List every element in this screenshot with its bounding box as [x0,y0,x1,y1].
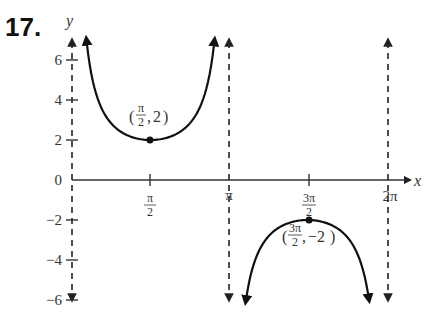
csc-graph: x y 6 4 2 0 −2 −4 −6 π 2 π 3π 2 [0,0,429,318]
x-tick-pi-over-2-num: π [147,191,153,205]
x-axis: x [72,172,421,189]
svg-text:(: ( [129,108,134,126]
x-tick-pi: π [225,187,233,203]
svg-text:−2: −2 [308,228,325,245]
y-tick-neg4: −4 [46,252,62,268]
y-tick-labels: 6 4 2 0 −2 −4 −6 [46,52,62,308]
svg-text:π: π [138,101,144,115]
svg-text:3π: 3π [289,221,301,235]
y-axis: y [64,12,74,298]
label-min: ( π 2 , 2 ) [129,101,168,129]
svg-text:,: , [302,228,306,245]
y-tick-neg2: −2 [46,212,62,228]
y-tick-neg6: −6 [46,292,62,308]
svg-text:2: 2 [138,115,144,129]
label-max: ( 3π 2 , −2 ) [282,221,335,249]
point-min [147,137,154,144]
y-tick-6: 6 [55,52,63,68]
svg-text:,: , [147,108,151,125]
y-tick-2: 2 [55,132,63,148]
x-axis-label: x [413,172,421,189]
x-tick-3pi-over-2-num: 3π [303,191,315,205]
x-tick-2pi: 2π [382,188,398,204]
svg-text:): ) [163,108,168,126]
curve-branch-1 [86,40,214,140]
x-tick-labels: π 2 π 3π 2 2π [144,187,398,219]
svg-text:(: ( [282,228,287,246]
point-max [306,217,313,224]
svg-text:2: 2 [153,108,161,125]
svg-text:): ) [330,228,335,246]
y-tick-4: 4 [55,92,63,108]
y-tick-0: 0 [55,172,63,188]
x-tick-pi-over-2-den: 2 [147,205,153,219]
svg-text:2: 2 [292,235,298,249]
y-axis-label: y [64,12,74,30]
